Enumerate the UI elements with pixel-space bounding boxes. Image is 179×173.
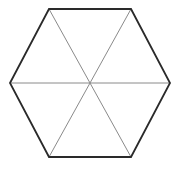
figure-background — [0, 0, 179, 173]
hexagon-figure — [0, 0, 179, 173]
figure-canvas — [0, 0, 179, 173]
